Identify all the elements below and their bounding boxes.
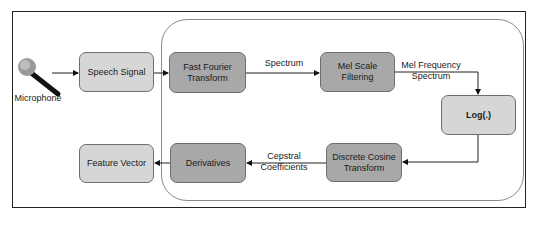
- node-label-line1: Fast Fourier: [183, 62, 232, 72]
- edge-label-mel-frequency: Mel FrequencySpectrum: [398, 60, 464, 82]
- microphone-icon: [18, 58, 58, 94]
- node-label-line1: Discrete Cosine: [332, 152, 396, 162]
- node-derivatives: Derivatives: [170, 143, 246, 183]
- edge-label-line2: Spectrum: [412, 71, 451, 81]
- node-speech-signal: Speech Signal: [79, 52, 154, 92]
- node-log: Log(.): [441, 95, 516, 135]
- node-fft: Fast FourierTransform: [169, 52, 246, 93]
- edge-label-spectrum: Spectrum: [258, 58, 310, 69]
- microphone-label: Microphone: [14, 93, 62, 104]
- node-label: Log(.): [466, 110, 491, 121]
- node-dct: Discrete CosineTransform: [326, 143, 402, 182]
- edge-label-cepstral: CepstralCoefficients: [254, 151, 314, 173]
- node-label: Derivatives: [186, 158, 231, 169]
- node-label-line1: Mel Scale: [338, 61, 378, 71]
- node-label-line2: Filtering: [341, 72, 373, 82]
- node-feature-vector: Feature Vector: [79, 144, 154, 183]
- node-label: Feature Vector: [87, 158, 146, 169]
- node-label: Speech Signal: [87, 67, 145, 78]
- edge-label-line2: Coefficients: [261, 162, 308, 172]
- node-mel-filtering: Mel ScaleFiltering: [320, 52, 395, 92]
- edge-label-line1: Mel Frequency: [401, 60, 461, 70]
- node-label-line2: Transform: [344, 163, 385, 173]
- node-label-line2: Transform: [187, 73, 228, 83]
- edge-label-line1: Cepstral: [267, 151, 301, 161]
